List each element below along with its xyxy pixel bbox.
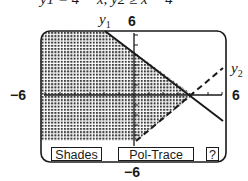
x-min-label: −6 — [10, 88, 26, 103]
curve-y1-label: y1 — [99, 12, 111, 32]
x-max-label: 6 — [232, 88, 240, 103]
y-min-label: −6 — [124, 165, 140, 180]
curve-y2-label: y2 — [231, 61, 243, 81]
shaded-region — [41, 31, 193, 141]
shades-button[interactable]: Shades — [51, 147, 102, 161]
pol-trace-button[interactable]: Pol-Trace — [118, 147, 194, 161]
y-max-label: 6 — [128, 14, 136, 29]
help-button[interactable]: ? — [206, 147, 219, 161]
